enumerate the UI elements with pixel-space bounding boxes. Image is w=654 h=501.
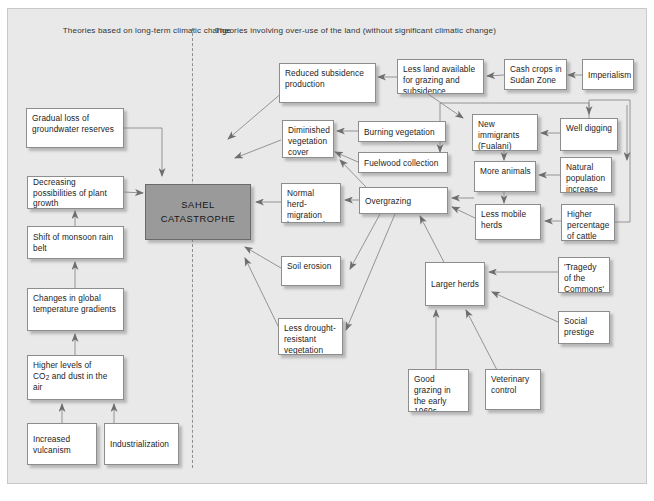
diagram-page: Theories based on long-term climatic cha… xyxy=(0,0,654,501)
node-normal-herd-migration-hampered[interactable]: Normal herd-migration hampered xyxy=(281,183,341,223)
node-gradual-loss-of-groundwater[interactable]: Gradual loss of groundwater reserves xyxy=(26,108,124,148)
node-tragedy-of-the-commons[interactable]: 'Tragedy of the Commons' xyxy=(558,257,610,293)
node-larger-herds[interactable]: Larger herds xyxy=(425,262,485,306)
theory-divider-dashed-line xyxy=(192,28,193,468)
co2-line-1: Higher levels of xyxy=(33,360,92,370)
node-increased-vulcanism[interactable]: Increased vulcanism xyxy=(27,423,97,465)
node-burning-vegetation[interactable]: Burning vegetation xyxy=(358,121,446,142)
node-natural-population-increase[interactable]: Natural population increase xyxy=(560,157,612,193)
header-right-overuse-theories: Theories involving over-use of the land … xyxy=(215,26,630,36)
co2-label: CO xyxy=(33,371,46,381)
node-less-mobile-herds[interactable]: Less mobile herds xyxy=(475,204,541,240)
node-industrialization[interactable]: Industrialization xyxy=(104,423,179,465)
sahel-line-2: CATASTROPHE xyxy=(161,212,236,226)
node-reduced-subsidence-production[interactable]: Reduced subsidence production xyxy=(279,63,376,103)
node-good-grazing-early-1960s[interactable]: Good grazing in the early 1960s xyxy=(408,369,469,412)
node-fuelwood-collection[interactable]: Fuelwood collection xyxy=(358,152,448,173)
node-higher-levels-of-co2[interactable]: Higher levels ofCO2 and dust in the air xyxy=(27,355,124,400)
node-less-drought-resistant-vegetation[interactable]: Less drought-resistant vegetation xyxy=(278,318,343,355)
node-new-immigrants-fualani[interactable]: New immigrants (Fualani) xyxy=(472,114,538,151)
node-more-animals[interactable]: More animals xyxy=(474,161,536,192)
node-higher-percentage-of-cattle[interactable]: Higher percentage of cattle xyxy=(561,204,615,241)
node-well-digging[interactable]: Well digging xyxy=(560,118,618,151)
node-veterinary-control[interactable]: Veterinary control xyxy=(485,369,541,410)
node-less-land-available[interactable]: Less land available for grazing and subs… xyxy=(397,59,484,94)
node-decreasing-possibilities[interactable]: Decreasing possibilities of plant growth xyxy=(27,176,124,209)
node-changes-in-global-temperature[interactable]: Changes in global temperature gradients xyxy=(27,288,124,331)
node-overgrazing[interactable]: Overgrazing xyxy=(359,187,448,214)
node-imperialism[interactable]: Imperialism xyxy=(582,59,634,90)
node-social-prestige[interactable]: Social prestige xyxy=(558,311,610,344)
node-shift-of-monsoon-rain-belt[interactable]: Shift of monsoon rain belt xyxy=(27,226,124,259)
sahel-line-1: SAHEL xyxy=(181,198,214,212)
node-cash-crops-in-sudan-zone[interactable]: Cash crops in Sudan Zone xyxy=(504,59,567,90)
node-sahel-catastrophe[interactable]: SAHEL CATASTROPHE xyxy=(145,184,251,240)
node-soil-erosion[interactable]: Soil erosion xyxy=(281,256,341,286)
header-left-climatic-theories: Theories based on long-term climatic cha… xyxy=(52,26,242,36)
node-diminished-vegetation-cover[interactable]: Diminished vegetation cover xyxy=(282,120,334,158)
